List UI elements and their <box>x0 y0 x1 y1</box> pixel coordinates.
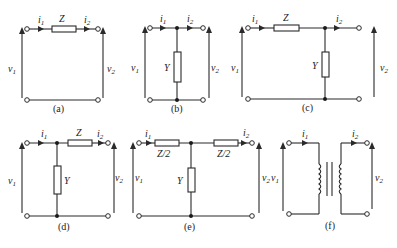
label-i1: i1 <box>302 128 308 141</box>
voltage-arrow-icon <box>369 142 375 149</box>
label-i1: i1 <box>41 128 47 141</box>
label-z: Z <box>283 12 289 23</box>
panel-a-series-impedance: i1 i2 Z v1 v2 (a) <box>8 13 115 115</box>
label-i2: i2 <box>243 127 250 140</box>
label-i1: i1 <box>38 14 44 27</box>
label-v2: v2 <box>262 172 270 185</box>
label-v2: v2 <box>115 172 123 185</box>
caption-d: (d) <box>58 221 70 233</box>
label-v1: v1 <box>8 63 16 76</box>
voltage-arrow-icon <box>239 26 245 33</box>
primary-coil-icon <box>319 164 321 194</box>
terminal <box>201 98 206 103</box>
label-v2: v2 <box>107 63 115 76</box>
label-v1: v1 <box>8 175 16 188</box>
terminal <box>357 26 362 31</box>
terminal <box>287 212 292 217</box>
label-i2: i2 <box>336 13 343 26</box>
terminal <box>201 26 206 31</box>
junction <box>189 141 193 145</box>
terminal <box>25 27 30 32</box>
label-y: Y <box>312 60 319 71</box>
panel-d-inverted-gamma-network: i1 i2 Z Y v1 v2 (d) <box>8 127 123 233</box>
impedance-z <box>52 26 76 32</box>
voltage-arrow-icon <box>111 142 117 149</box>
terminal <box>25 141 30 146</box>
label-z-half-left: Z/2 <box>157 148 170 159</box>
voltage-arrow-icon <box>371 26 377 33</box>
label-i1: i1 <box>252 13 258 26</box>
terminal <box>96 98 101 103</box>
terminal <box>250 214 255 219</box>
junction <box>175 26 179 30</box>
label-v1: v1 <box>131 62 139 75</box>
voltage-arrow-icon <box>19 27 25 34</box>
caption-e: (e) <box>184 221 195 233</box>
voltage-arrow-icon <box>130 142 136 149</box>
label-y: Y <box>164 62 171 73</box>
terminal <box>287 141 292 146</box>
label-z-half-right: Z/2 <box>217 148 230 159</box>
label-z: Z <box>59 13 65 24</box>
terminal <box>137 141 142 146</box>
label-i2: i2 <box>187 13 194 26</box>
voltage-arrow-icon <box>100 27 106 34</box>
label-i2: i2 <box>352 128 359 141</box>
label-v1: v1 <box>231 62 239 75</box>
terminal <box>365 141 370 146</box>
label-i2: i2 <box>84 14 91 27</box>
terminal <box>106 214 111 219</box>
impedance-z-half-right <box>214 140 238 146</box>
label-v1: v1 <box>271 172 279 185</box>
current-arrow-icon <box>259 25 265 31</box>
current-arrow-icon <box>241 140 247 146</box>
label-y: Y <box>64 175 71 186</box>
terminal <box>137 214 142 219</box>
terminal <box>246 97 251 102</box>
admittance-y <box>54 166 61 194</box>
impedance-z <box>274 25 299 31</box>
caption-c: (c) <box>302 102 313 114</box>
junction <box>189 214 193 218</box>
voltage-arrow-icon <box>206 26 212 33</box>
panel-f-transformer: i1 i2 v1 v2 (f) <box>271 128 383 232</box>
terminal <box>357 97 362 102</box>
two-port-networks-figure: i1 i2 Z v1 v2 (a) i1 i2 Y v1 v2 (b) <box>0 0 397 248</box>
terminal <box>148 26 153 31</box>
terminal <box>365 212 370 217</box>
label-v2: v2 <box>380 62 388 75</box>
label-z: Z <box>76 127 82 138</box>
impedance-z-half-left <box>155 140 179 146</box>
label-v2: v2 <box>375 172 383 185</box>
label-v2: v2 <box>211 62 219 75</box>
junction <box>323 26 327 30</box>
voltage-arrow-icon <box>19 142 25 149</box>
terminal <box>96 27 101 32</box>
label-v1: v1 <box>135 172 143 185</box>
label-i1: i1 <box>160 13 166 26</box>
label-i2: i2 <box>97 128 104 141</box>
voltage-arrow-icon <box>280 142 286 149</box>
terminal <box>25 98 30 103</box>
admittance-y <box>188 168 195 192</box>
label-y: Y <box>177 175 184 186</box>
voltage-arrow-icon <box>256 142 262 149</box>
caption-a: (a) <box>53 103 64 115</box>
terminal <box>246 26 251 31</box>
junction <box>323 97 327 101</box>
panel-b-shunt-admittance: i1 i2 Y v1 v2 (b) <box>131 13 219 115</box>
junction <box>55 141 59 145</box>
terminal <box>106 141 111 146</box>
label-i1: i1 <box>145 128 151 141</box>
secondary-coil-icon <box>339 164 341 194</box>
junction <box>55 214 59 218</box>
panel-e-t-network: i1 i2 Z/2 Z/2 Y v1 v2 (e) <box>130 127 270 233</box>
admittance-y <box>174 52 181 82</box>
impedance-z <box>68 140 92 146</box>
voltage-arrow-icon <box>142 26 148 33</box>
terminal <box>148 98 153 103</box>
admittance-y <box>322 52 329 77</box>
terminal <box>250 141 255 146</box>
terminal <box>25 214 30 219</box>
junction <box>175 98 179 102</box>
